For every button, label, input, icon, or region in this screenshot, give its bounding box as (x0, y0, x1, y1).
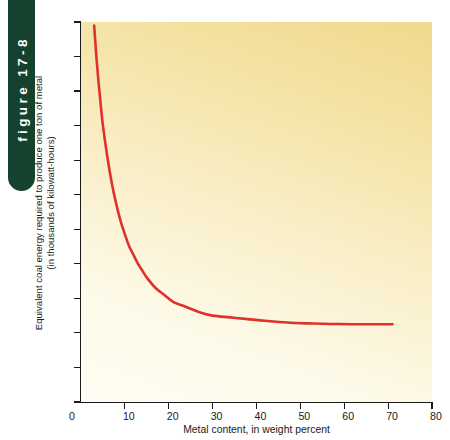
y-tick-mark (74, 229, 80, 230)
x-tick-mark (388, 403, 389, 409)
plot-area (81, 22, 432, 402)
x-tick-label: 30 (211, 410, 223, 422)
y-axis-line (80, 21, 81, 403)
x-tick-mark (168, 403, 169, 409)
x-tick-label: 50 (298, 410, 310, 422)
x-tick-mark (256, 403, 257, 409)
x-tick-label: 40 (255, 410, 267, 422)
x-tick-label: 60 (342, 410, 354, 422)
y-tick-mark (74, 90, 80, 91)
figure-root: figure 17-8 Equivalent coal energy requi… (0, 0, 450, 440)
x-tick-mark (124, 403, 125, 409)
x-tick-mark (212, 403, 213, 409)
y-tick-mark (74, 125, 80, 126)
x-tick-label: 80 (430, 410, 442, 422)
y-tick-mark (74, 367, 80, 368)
figure-number-label: figure 17-8 (14, 36, 29, 142)
y-axis-title-line1: Equivalent coal energy required to produ… (33, 75, 44, 329)
x-tick-label: 20 (167, 410, 179, 422)
x-tick-mark (344, 403, 345, 409)
y-tick-mark (74, 21, 80, 22)
y-tick-mark (74, 56, 80, 57)
y-tick-mark (74, 194, 80, 195)
y-tick-mark (74, 263, 80, 264)
y-tick-mark (74, 298, 80, 299)
x-tick-mark (300, 403, 301, 409)
x-axis-title: Metal content, in weight percent (81, 424, 432, 435)
y-tick-mark (74, 401, 80, 402)
x-tick-label: 10 (123, 410, 135, 422)
x-tick-label: 0 (69, 410, 75, 422)
y-tick-mark (74, 332, 80, 333)
y-axis-title: Equivalent coal energy required to produ… (30, 0, 60, 405)
x-tick-label: 70 (386, 410, 398, 422)
y-axis-title-line2: (in thousands of kilowatt-hours) (45, 75, 57, 329)
y-tick-mark (74, 160, 80, 161)
x-tick-mark (431, 403, 432, 409)
